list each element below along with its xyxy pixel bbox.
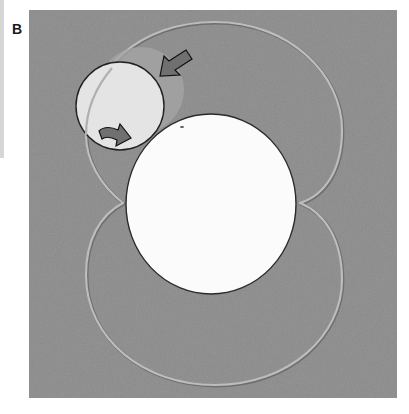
orbit-diagram (0, 0, 409, 414)
large-disk (126, 114, 296, 294)
